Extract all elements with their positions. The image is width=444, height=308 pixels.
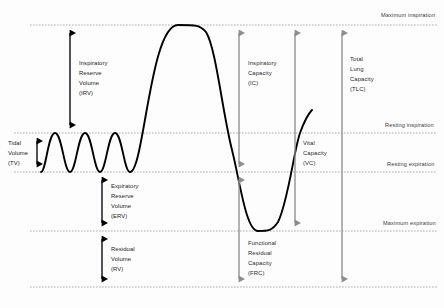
irv-label-line1: Inspiratory <box>79 60 108 66</box>
tlc-label-line1: Total <box>350 56 363 62</box>
vc-label: Vital Capacity (VC) <box>303 140 327 166</box>
tv-label-line2: Volume <box>8 150 29 156</box>
tv-label-line3: (TV) <box>8 160 20 166</box>
rv-label-line2: Volume <box>111 256 132 262</box>
vc-label-line1: Vital <box>303 140 315 146</box>
ic-label: Inspiratory Capacity (IC) <box>248 60 277 86</box>
label-resting-inspiration: Resting inspiration <box>385 122 434 128</box>
frc-label-line4: (FRC) <box>248 270 265 276</box>
spirogram-trace <box>41 25 312 231</box>
erv-label: Expiratory Reserve Volume (ERV) <box>111 183 139 219</box>
tlc-label: Total Lung Capacity (TLC) <box>350 56 374 92</box>
irv-label-line3: Volume <box>79 80 100 86</box>
irv-label: Inspiratory Reserve Volume (IRV) <box>79 60 108 96</box>
rv-label-line3: (RV) <box>111 266 123 272</box>
ic-label-line1: Inspiratory <box>248 60 277 66</box>
vc-label-line2: Capacity <box>303 150 327 156</box>
spirogram-figure: Maximum inspiration Resting inspiration … <box>0 0 444 308</box>
label-maximum-expiration: Maximum expiration <box>383 220 436 226</box>
label-maximum-inspiration: Maximum inspiration <box>381 12 435 18</box>
frc-label-line1: Functional <box>248 240 276 246</box>
erv-label-line3: Volume <box>111 203 132 209</box>
erv-label-line2: Reserve <box>111 193 134 199</box>
tlc-label-line2: Lung <box>350 66 364 72</box>
irv-label-line4: (IRV) <box>79 90 93 96</box>
tv-label-line1: Tidal <box>8 140 21 146</box>
spirogram-chart: Maximum inspiration Resting inspiration … <box>0 0 444 308</box>
spirogram-trace-group <box>41 25 312 231</box>
vc-label-line3: (VC) <box>303 160 316 166</box>
tlc-label-line4: (TLC) <box>350 86 366 92</box>
erv-label-line1: Expiratory <box>111 183 139 189</box>
erv-label-line4: (ERV) <box>111 213 127 219</box>
irv-label-line2: Reserve <box>79 70 102 76</box>
frc-label-line3: Capacity <box>248 260 272 266</box>
tv-label: Tidal Volume (TV) <box>8 140 29 166</box>
label-resting-expiration: Resting expiration <box>387 161 434 167</box>
frc-label-line2: Residual <box>248 250 272 256</box>
reference-level-lines <box>14 25 437 287</box>
rv-label: Residual Volume (RV) <box>111 246 135 272</box>
ic-label-line2: Capacity <box>248 70 272 76</box>
frc-label: Functional Residual Capacity (FRC) <box>248 240 276 276</box>
ic-label-line3: (IC) <box>248 80 258 86</box>
tlc-label-line3: Capacity <box>350 76 374 82</box>
level-labels: Maximum inspiration Resting inspiration … <box>381 12 436 226</box>
rv-label-line1: Residual <box>111 246 135 252</box>
